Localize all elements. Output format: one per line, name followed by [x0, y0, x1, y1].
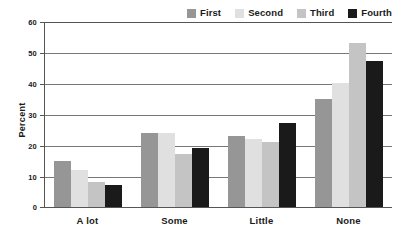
legend-swatch-first	[187, 9, 196, 18]
bar[interactable]	[175, 154, 192, 207]
bar-group: A lot	[44, 22, 131, 207]
bar[interactable]	[192, 148, 209, 207]
bar[interactable]	[158, 133, 175, 207]
legend-label-fourth: Fourth	[361, 8, 392, 18]
legend-item-second: Second	[235, 8, 283, 18]
legend-label-third: Third	[310, 8, 334, 18]
y-tick-label-60: 60	[28, 18, 37, 27]
x-tick-label: Little	[250, 215, 274, 226]
x-tick-label: A lot	[77, 215, 99, 226]
bar[interactable]	[366, 61, 383, 207]
legend-item-first: First	[187, 8, 221, 18]
y-tick-label-20: 20	[28, 142, 37, 151]
bar[interactable]	[141, 133, 158, 207]
y-tick-label-40: 40	[28, 80, 37, 89]
y-tick-label-50: 50	[28, 49, 37, 58]
legend-swatch-fourth	[348, 9, 357, 18]
legend-item-fourth: Fourth	[348, 8, 392, 18]
x-tick-label: Some	[161, 215, 188, 226]
y-tick-label-10: 10	[28, 173, 37, 182]
legend-label-second: Second	[248, 8, 283, 18]
bar[interactable]	[262, 142, 279, 207]
x-tick-label: None	[336, 215, 361, 226]
y-tick-label-30: 30	[28, 111, 37, 120]
x-axis-line	[44, 207, 392, 208]
bar-group: Some	[131, 22, 218, 207]
legend-swatch-third	[297, 9, 306, 18]
legend-swatch-second	[235, 9, 244, 18]
bar[interactable]	[71, 170, 88, 207]
bar-group: None	[305, 22, 392, 207]
plot-area: 6050403020100 A lotSomeLittleNone	[44, 22, 392, 208]
bar[interactable]	[315, 99, 332, 208]
y-axis-title: Percent	[17, 102, 27, 137]
bar[interactable]	[349, 43, 366, 207]
bar-chart: First Second Third Fourth Percent 605040…	[0, 0, 400, 239]
bar-group: Little	[218, 22, 305, 207]
y-tick-label-0: 0	[33, 203, 37, 212]
bar[interactable]	[228, 136, 245, 207]
bar[interactable]	[279, 123, 296, 207]
bar[interactable]	[332, 83, 349, 207]
bar[interactable]	[88, 182, 105, 207]
legend-item-third: Third	[297, 8, 334, 18]
legend-label-first: First	[200, 8, 221, 18]
bar[interactable]	[105, 185, 122, 207]
bar[interactable]	[245, 139, 262, 207]
bar[interactable]	[54, 161, 71, 208]
chart-legend: First Second Third Fourth	[187, 6, 392, 20]
plot-frame: 6050403020100 A lotSomeLittleNone	[44, 22, 392, 208]
